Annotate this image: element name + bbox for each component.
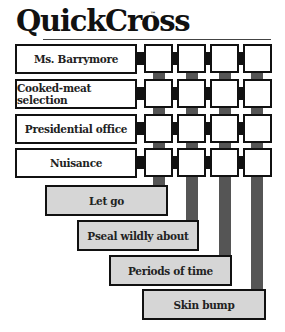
grid-cell-r4c4[interactable]	[243, 148, 272, 177]
column-bar-3	[219, 177, 231, 257]
column-bar-4	[251, 177, 263, 291]
grid-cell-r3c2[interactable]	[177, 114, 206, 143]
grid-cell-r4c2[interactable]	[177, 148, 206, 177]
across-clue-4: Nuisance	[15, 148, 137, 178]
grid-cell-r3c4[interactable]	[243, 114, 272, 143]
grid-cell-r1c4[interactable]	[243, 44, 272, 73]
grid-cell-r2c4[interactable]	[243, 79, 272, 108]
grid-cell-r2c3[interactable]	[210, 79, 239, 108]
grid-cell-r1c3[interactable]	[210, 44, 239, 73]
across-clue-3: Presidential office	[15, 114, 137, 144]
down-clue-1: Let go	[45, 185, 168, 216]
grid-cell-r3c1[interactable]	[144, 114, 173, 143]
trademark-mark: ™	[150, 10, 156, 17]
grid-cell-r4c3[interactable]	[210, 148, 239, 177]
grid-cell-r3c3[interactable]	[210, 114, 239, 143]
down-clue-3: Periods of time	[109, 255, 232, 286]
grid-cell-r2c1[interactable]	[144, 79, 173, 108]
column-bar-2	[186, 177, 198, 222]
grid-cell-r4c1[interactable]	[144, 148, 173, 177]
across-clue-2: Cooked-meat selection	[15, 79, 137, 109]
grid-cell-r2c2[interactable]	[177, 79, 206, 108]
grid-cell-r1c1[interactable]	[144, 44, 173, 73]
across-clue-1: Ms. Barrymore	[15, 44, 137, 74]
title-text: QuickCross	[16, 4, 189, 38]
down-clue-2: Pseal wildly about	[77, 220, 199, 251]
title-underline	[43, 39, 271, 40]
down-clue-4: Skin bump	[142, 289, 266, 320]
grid-cell-r1c2[interactable]	[177, 44, 206, 73]
